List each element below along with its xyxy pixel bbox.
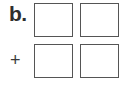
answer-box-row2-tens[interactable]: [34, 44, 73, 78]
answer-box-row1-ones[interactable]: [80, 3, 119, 37]
answer-box-row2-ones[interactable]: [80, 44, 119, 78]
plus-operator: +: [10, 50, 21, 70]
answer-box-row1-tens[interactable]: [34, 3, 73, 37]
problem-label: b.: [9, 3, 27, 25]
